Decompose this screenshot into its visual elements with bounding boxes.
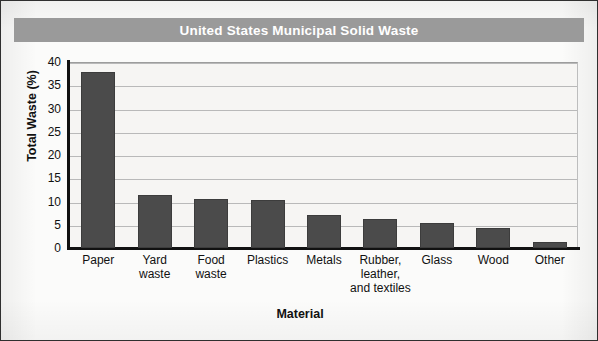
bar-slot (239, 62, 295, 248)
x-label-line: leather, (340, 267, 420, 281)
chart-title: United States Municipal Solid Waste (179, 23, 418, 38)
y-tick-label: 40 (35, 55, 61, 69)
chart-title-banner: United States Municipal Solid Waste (14, 18, 584, 42)
x-label-line: Other (510, 253, 590, 267)
bar-wood[interactable] (476, 228, 510, 248)
y-tick-label: 15 (35, 171, 61, 185)
bar-slot (296, 62, 352, 248)
bar-slot (465, 62, 521, 248)
bar-rubber-leather-and-textiles[interactable] (363, 219, 397, 248)
bar-slot (409, 62, 465, 248)
bar-yard-waste[interactable] (138, 195, 172, 248)
x-label-line: and textiles (340, 281, 420, 295)
x-axis-title: Material (1, 307, 598, 321)
x-axis-labels: PaperYardwasteFoodwastePlasticsMetalsRub… (70, 253, 578, 303)
y-axis-ticks: 0510152025303540 (35, 62, 61, 248)
bar-food-waste[interactable] (194, 199, 228, 248)
bar-slot (70, 62, 126, 248)
bar-slot (352, 62, 408, 248)
bar-slot (522, 62, 578, 248)
bar-glass[interactable] (420, 223, 454, 248)
x-tick-label: Other (510, 253, 590, 267)
bars-layer (70, 62, 578, 248)
bar-other[interactable] (533, 242, 567, 249)
bar-paper[interactable] (81, 72, 115, 248)
y-tick-label: 10 (35, 195, 61, 209)
chart-figure: United States Municipal Solid Waste Tota… (0, 0, 598, 341)
y-tick-label: 30 (35, 102, 61, 116)
bar-plastics[interactable] (251, 200, 285, 248)
y-tick-label: 35 (35, 78, 61, 92)
y-tick-label: 20 (35, 148, 61, 162)
bar-slot (183, 62, 239, 248)
bar-slot (126, 62, 182, 248)
y-tick-label: 25 (35, 125, 61, 139)
bar-metals[interactable] (307, 215, 341, 248)
y-tick-label: 5 (35, 218, 61, 232)
x-label-line: waste (171, 267, 251, 281)
